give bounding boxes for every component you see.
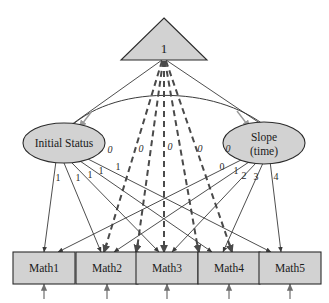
label-intercept-math3: 0 (168, 141, 173, 152)
label-loading-initial-math4: 1 (99, 165, 104, 176)
label-intercept-math2: 0 (139, 143, 144, 154)
label-intercept-math1: 0 (108, 144, 113, 155)
arrow-constant-to-math1 (104, 243, 107, 252)
latent-label-slope: Slope (251, 131, 277, 144)
label-loading-slope-math5: 4 (274, 171, 279, 182)
label-loading-slope-math3: 2 (242, 170, 247, 181)
constant-triangle-label: 1 (161, 41, 168, 56)
label-loading-initial-math5: 1 (116, 161, 121, 172)
loading-initial-math1 (44, 161, 56, 252)
arrow-constant-to-math4 (197, 243, 199, 252)
path-diagram: 1 Initial Status Slope (time) Math1 Math… (0, 0, 329, 303)
label-loading-initial-math1: 1 (56, 172, 61, 183)
observed-label-math4: Math4 (214, 262, 244, 274)
path-constant-to-math2 (137, 61, 163, 249)
covariance-arc (66, 95, 268, 131)
observed-label-math1: Math1 (29, 262, 59, 274)
label-loading-initial-math2: 1 (76, 172, 81, 183)
label-intercept-math5: 0 (226, 143, 231, 154)
path-constant-to-slope (166, 60, 264, 126)
diagram-canvas: 1 Initial Status Slope (time) Math1 Math… (0, 0, 329, 303)
latent-label-initial-status: Initial Status (35, 137, 94, 149)
path-constant-to-initial (68, 60, 162, 127)
latent-label-slope-time: (time) (250, 145, 278, 158)
path-constant-to-math4 (165, 61, 198, 249)
label-loading-slope-math2: 1 (234, 165, 239, 176)
label-loading-slope-math1: 0 (220, 161, 225, 172)
observed-label-math3: Math3 (152, 262, 182, 274)
arrow-constant-to-math2 (136, 243, 138, 252)
arrow-constant-to-math5 (229, 243, 232, 252)
path-constant-to-math5 (166, 61, 231, 249)
observed-label-math2: Math2 (92, 262, 122, 274)
label-intercept-math4: 0 (198, 143, 203, 154)
label-loading-initial-math3: 1 (88, 169, 93, 180)
label-loading-slope-math4: 3 (254, 171, 259, 182)
path-constant-to-math1 (105, 61, 162, 249)
loading-initial-math2 (64, 163, 101, 252)
observed-label-math5: Math5 (275, 262, 305, 274)
latent-node-slope[interactable] (223, 122, 305, 164)
